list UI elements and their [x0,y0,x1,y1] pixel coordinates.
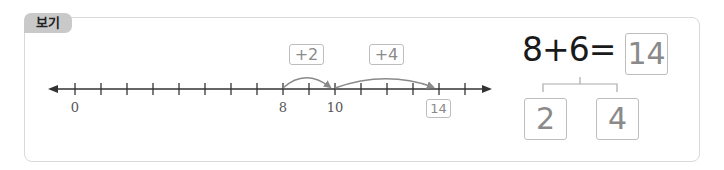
decomposition-bracket [0,0,724,170]
split-part-box-1: 2 [524,98,567,140]
split-part-box-2: 4 [596,98,639,140]
